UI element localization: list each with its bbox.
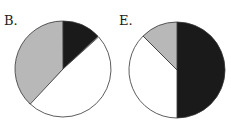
pie-chart-e <box>129 22 225 118</box>
pie-charts <box>0 0 231 121</box>
pie-chart-b <box>15 21 111 117</box>
pie-slice <box>177 22 225 118</box>
